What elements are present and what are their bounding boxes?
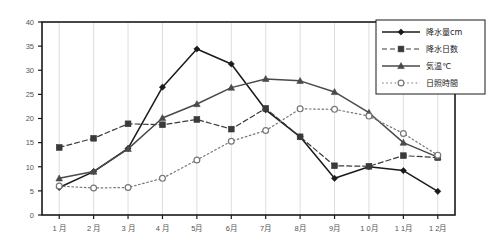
- y-axis: 0510152025303540: [26, 18, 42, 220]
- data-point-circle: [91, 185, 97, 191]
- x-axis-tick-label: 1 月: [53, 224, 66, 233]
- x-axis-tick-label: 6月: [226, 224, 237, 233]
- data-point-square: [91, 135, 97, 141]
- y-axis-tick-label: 35: [26, 42, 34, 51]
- data-point-circle: [366, 113, 372, 119]
- x-axis-tick-label: 3 月: [121, 224, 134, 233]
- chart-container: 05101520253035401 月2 月3 月4 月5月6月7月8月9月1 …: [0, 0, 494, 250]
- data-point-circle: [400, 131, 406, 137]
- legend-item-label: 降水量cm: [426, 27, 462, 37]
- data-point-circle: [194, 157, 200, 163]
- x-axis-tick-label: 4 月: [156, 224, 169, 233]
- data-point-circle: [228, 138, 234, 144]
- data-point-square: [125, 121, 131, 127]
- legend: 降水量cm降水日数気温℃日照時間: [376, 20, 485, 94]
- data-point-circle: [263, 128, 269, 134]
- x-axis-tick-label: 1 2月: [429, 224, 446, 233]
- data-point-square: [400, 153, 406, 159]
- y-axis-tick-label: 20: [26, 114, 34, 123]
- y-axis-tick-label: 10: [26, 163, 34, 172]
- x-axis: 1 月2 月3 月4 月5月6月7月8月9月1 0月1 1月1 2月: [53, 215, 447, 233]
- x-axis-tick-label: 8月: [295, 224, 306, 233]
- data-point-square: [297, 134, 303, 140]
- legend-item-label: 降水日数: [426, 44, 458, 54]
- y-axis-tick-label: 0: [30, 211, 34, 220]
- data-point-circle: [125, 185, 131, 191]
- x-axis-tick-label: 7月: [260, 224, 271, 233]
- y-axis-tick-label: 40: [26, 18, 34, 27]
- data-point-square: [398, 46, 404, 52]
- weather-line-chart: 05101520253035401 月2 月3 月4 月5月6月7月8月9月1 …: [0, 0, 494, 250]
- data-point-square: [263, 105, 269, 111]
- legend-item-label: 気温℃: [426, 61, 451, 71]
- y-axis-tick-label: 15: [26, 138, 34, 147]
- data-point-circle: [435, 152, 441, 158]
- data-point-square: [228, 126, 234, 132]
- x-axis-tick-label: 5月: [191, 224, 202, 233]
- y-axis-tick-label: 30: [26, 66, 34, 75]
- data-point-circle: [398, 80, 404, 86]
- legend-item-label: 日照時間: [426, 79, 458, 88]
- data-point-square: [56, 145, 62, 151]
- x-axis-tick-label: 9月: [329, 224, 340, 233]
- data-point-circle: [160, 175, 166, 181]
- x-axis-tick-label: 1 1月: [395, 224, 412, 233]
- data-point-square: [366, 163, 372, 169]
- x-axis-tick-label: 2 月: [87, 224, 100, 233]
- x-axis-tick-label: 1 0月: [360, 224, 377, 233]
- data-point-square: [194, 117, 200, 123]
- y-axis-tick-label: 5: [30, 187, 34, 196]
- data-point-circle: [297, 106, 303, 112]
- data-point-circle: [332, 106, 338, 112]
- data-point-square: [332, 163, 338, 169]
- y-axis-tick-label: 25: [26, 90, 34, 99]
- data-point-square: [160, 122, 166, 128]
- data-point-circle: [56, 183, 62, 189]
